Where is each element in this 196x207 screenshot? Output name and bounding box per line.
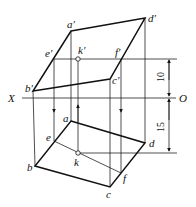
label-c: c (106, 188, 111, 200)
top-view-plane (35, 121, 145, 187)
label-k-prime: k′ (78, 44, 86, 56)
label-b-prime: b′ (25, 82, 34, 94)
label-a: a (63, 112, 69, 124)
dim-15-label: 15 (155, 122, 166, 132)
label-e-prime: e′ (45, 47, 53, 59)
projection-diagram: 10 15 X O a′ b′ c′ d′ e′ f′ k′ a b c d e… (0, 0, 196, 207)
label-f: f (123, 172, 128, 184)
point-k (76, 151, 80, 155)
label-k: k (74, 156, 80, 168)
point-k-prime (76, 57, 80, 61)
projector-b (33, 91, 35, 166)
label-a-prime: a′ (67, 18, 76, 30)
label-d: d (149, 137, 155, 149)
label-f-prime: f′ (115, 46, 121, 58)
axis-x-label: X (7, 92, 16, 104)
axis-o-label: O (179, 92, 187, 104)
label-b: b (27, 161, 33, 173)
line-ef (54, 141, 121, 173)
label-d-prime: d′ (148, 12, 157, 24)
label-c-prime: c′ (112, 74, 120, 86)
dim-10-label: 10 (155, 72, 166, 82)
label-e: e (46, 131, 51, 143)
